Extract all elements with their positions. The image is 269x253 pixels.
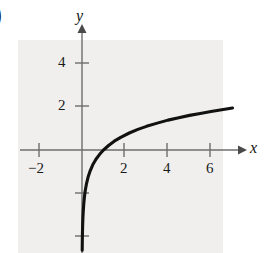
- x-axis-label: x: [250, 140, 257, 156]
- y-axis-label: y: [76, 8, 83, 24]
- x-tick-label: −2: [28, 161, 44, 176]
- graph-canvas: [0, 0, 269, 253]
- y-tick-label: 4: [58, 55, 66, 70]
- x-tick-label: 6: [206, 161, 214, 176]
- y-axis-arrowhead: [78, 24, 87, 33]
- y-tick-label: 2: [58, 98, 66, 113]
- x-axis-arrowhead: [238, 146, 247, 155]
- figure-root: ) x y −224642: [0, 0, 269, 253]
- x-tick-label: 2: [120, 161, 128, 176]
- log-curve: [82, 108, 232, 250]
- x-tick-label: 4: [163, 161, 171, 176]
